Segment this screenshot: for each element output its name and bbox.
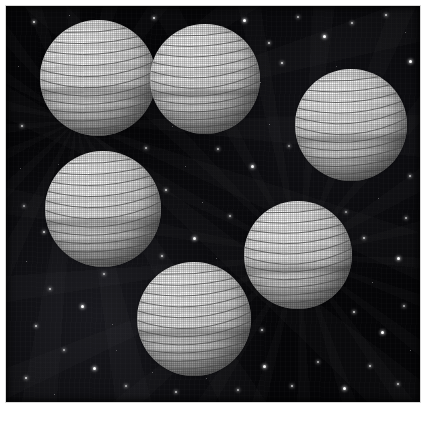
sphere-1-band-line	[40, 59, 156, 77]
sphere-3-band-line	[295, 116, 407, 134]
sphere-3-band-line	[295, 135, 407, 151]
star	[297, 16, 299, 18]
star	[63, 349, 65, 351]
star	[405, 32, 406, 33]
sphere-4-band-line	[45, 219, 161, 235]
sphere-6-band-line	[137, 329, 251, 345]
star	[202, 202, 203, 203]
star	[397, 257, 400, 260]
sphere-5-band-line	[244, 273, 352, 287]
star	[336, 66, 337, 67]
star	[26, 261, 27, 262]
star	[288, 145, 290, 147]
star	[372, 282, 373, 283]
sphere-2-band-line	[150, 43, 260, 57]
sphere-6-band-line	[137, 291, 251, 307]
sphere-2-band-line	[150, 98, 260, 112]
star	[251, 165, 254, 168]
sphere-4-latitude-arcs	[45, 151, 161, 267]
sphere-5-band-line	[244, 282, 352, 295]
sphere-3-band-line	[295, 153, 407, 166]
star	[369, 365, 371, 367]
star	[206, 378, 207, 379]
star	[21, 125, 23, 127]
sphere-4-band-line	[45, 248, 161, 260]
sphere-2-band-line	[150, 107, 260, 120]
star	[268, 42, 270, 44]
sphere-2-band-line	[150, 61, 260, 78]
star	[217, 148, 219, 150]
star	[49, 288, 51, 290]
star	[409, 175, 411, 177]
sphere-4-band-line	[45, 200, 161, 219]
sphere-1-band-line	[40, 49, 156, 65]
sphere-2-band-line	[150, 116, 260, 128]
star	[165, 189, 167, 191]
sphere-2	[150, 24, 260, 134]
sphere-3	[295, 69, 407, 181]
sphere-6-band-line	[137, 262, 251, 274]
star	[381, 331, 384, 334]
star	[353, 311, 355, 313]
star	[378, 198, 379, 199]
sphere-2-band-line	[150, 52, 260, 68]
sphere-1-band-line	[40, 20, 156, 32]
star	[323, 35, 326, 38]
star	[261, 329, 263, 331]
sphere-6-band-line	[137, 310, 251, 329]
star	[317, 361, 319, 363]
star	[363, 237, 365, 239]
sphere-4-band-line	[45, 190, 161, 208]
sphere-5-band-line	[244, 291, 352, 303]
star	[385, 14, 387, 16]
sphere-5-band-line	[244, 246, 352, 264]
star	[18, 66, 19, 67]
star	[409, 60, 412, 63]
sphere-2-latitude-arcs	[150, 24, 260, 134]
sphere-6	[137, 262, 251, 376]
sphere-6-band-line	[137, 338, 251, 353]
sphere-5-band-line	[244, 228, 352, 243]
star	[243, 19, 246, 22]
figure-canvas	[0, 0, 434, 421]
star	[112, 324, 113, 325]
sphere-4-band-line	[45, 238, 161, 252]
sphere-2-band-line	[150, 24, 260, 36]
sphere-6-band-line	[137, 348, 251, 361]
sphere-4-band-line	[45, 171, 161, 186]
star	[54, 394, 55, 395]
star	[229, 215, 231, 217]
star	[93, 367, 96, 370]
sphere-5-band-line	[244, 219, 352, 233]
sphere-1	[40, 20, 156, 136]
star	[351, 22, 353, 24]
sphere-2-band-line	[150, 89, 260, 105]
sphere-3-band-line	[295, 144, 407, 158]
star	[23, 205, 25, 207]
star	[281, 62, 283, 64]
star	[291, 385, 293, 387]
star	[145, 147, 147, 149]
sphere-1-band-line	[40, 117, 156, 129]
sphere-3-band-line	[295, 88, 407, 102]
sphere-5-band-line	[244, 201, 352, 213]
sphere-5-latitude-arcs	[244, 201, 352, 309]
star	[263, 365, 266, 368]
star	[35, 325, 37, 327]
star	[161, 255, 163, 257]
sphere-3-band-line	[295, 97, 407, 113]
star	[216, 258, 217, 259]
star	[125, 385, 127, 387]
star	[237, 389, 239, 391]
star	[185, 166, 186, 167]
sphere-2-band-line	[150, 70, 260, 88]
star	[81, 305, 84, 308]
sphere-4-band-line	[45, 180, 161, 196]
sphere-6-band-line	[137, 281, 251, 296]
star	[343, 387, 346, 390]
sphere-5-band-line	[244, 237, 352, 254]
star	[33, 21, 35, 23]
sphere-4	[45, 151, 161, 267]
sphere-5	[244, 201, 352, 309]
sphere-1-latitude-arcs	[40, 20, 156, 136]
